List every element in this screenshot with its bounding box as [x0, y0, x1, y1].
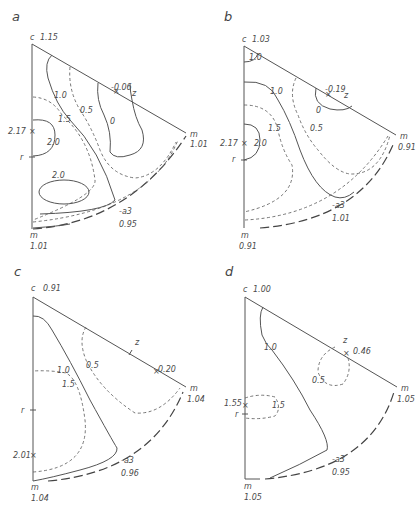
z-name: z [134, 338, 140, 347]
contour-label-0: 0 [110, 117, 115, 126]
arc-name: -a3 [332, 455, 345, 464]
top-edge [245, 297, 397, 387]
apex-name: c [243, 285, 248, 294]
panel-b: b c 1.03 1.0 1.0 0 1.5 0.5 2.0 -0.19 z ×… [220, 9, 416, 251]
z-value: 0.46 [353, 347, 371, 356]
contour-label-0.5: 0.5 [310, 124, 323, 133]
corner-bottom-name: m [30, 231, 38, 240]
apex-name: c [31, 284, 36, 293]
contour-label-0: 0 [316, 106, 321, 115]
contour-label-1.0: 1.0 [54, 91, 67, 100]
corner-right-value: 1.04 [187, 395, 205, 404]
contour-label-1.5: 1.5 [272, 401, 285, 410]
x-marker-icon: × [113, 87, 120, 96]
contour-label-1.0: 1.0 [57, 366, 70, 375]
contour-label-0.5: 0.5 [86, 361, 99, 370]
contour-1.5 [244, 105, 293, 212]
corner-right-value: 1.05 [397, 395, 415, 404]
corner-right-name: m [401, 384, 409, 393]
x-marker-icon: × [30, 451, 37, 460]
contour-label-2.0b: 2.0 [52, 171, 65, 180]
apex-value: 0.91 [43, 284, 61, 293]
contour-label-1.5: 1.5 [268, 124, 281, 133]
corner-bottom-value: 0.91 [239, 242, 257, 251]
contour-1.5 [33, 371, 85, 472]
arc-name: -a3 [332, 201, 345, 210]
x-marker-icon: × [325, 90, 332, 99]
apex-name: c [30, 33, 35, 42]
corner-right-value: 1.01 [190, 140, 208, 149]
outer-arc [48, 392, 183, 481]
inner-arc-contour [245, 136, 388, 220]
panel-d: d c 1.00 1.0 0.5 1.5 z 0.46 × 1.55 × r m… [224, 264, 415, 502]
corner-bottom-value: 1.05 [244, 493, 262, 502]
arc-value: 1.01 [332, 214, 350, 223]
arc-value: 0.96 [121, 469, 139, 478]
top-edge [32, 44, 186, 133]
x-marker-icon: × [242, 401, 249, 410]
corner-right-name: m [400, 132, 408, 141]
corner-bottom-name: m [244, 482, 252, 491]
corner-bottom-name: m [31, 483, 39, 492]
extremum-value: 1.55 [224, 399, 242, 408]
arc-value: 0.95 [332, 468, 350, 477]
x-marker-icon: × [241, 139, 248, 148]
r-label: r [21, 406, 25, 415]
r-label: r [20, 153, 24, 162]
z-name: z [342, 336, 348, 345]
corner-right-name: m [190, 384, 198, 393]
apex-value: 1.15 [40, 33, 58, 42]
contour-1.0 [40, 55, 115, 214]
top-edge [244, 46, 396, 135]
extremum-value: 2.01 [13, 451, 31, 460]
contour-figure: a c 1.15 1.0 0.5 0 1.5 2.0 2.0 -0.06 z ×… [0, 0, 419, 511]
r-label: r [235, 410, 239, 419]
contour-0 [98, 83, 144, 157]
contour-label-2.0: 2.0 [254, 139, 267, 148]
z-value: 0.20 [158, 365, 176, 374]
contour-label-1.5: 1.5 [62, 380, 75, 389]
panel-a: a c 1.15 1.0 0.5 0 1.5 2.0 2.0 -0.06 z ×… [8, 9, 208, 251]
corner-right-name: m [190, 130, 198, 139]
contour-label-0.5: 0.5 [80, 106, 93, 115]
apex-name: c [242, 35, 247, 44]
arc-value: 0.95 [119, 220, 137, 229]
panel-c: c c 0.91 1.0 0.5 1.5 z 0.20 × 2.01 × r m… [13, 264, 205, 503]
corner-bottom-value: 1.04 [31, 494, 49, 503]
contour-label-1.0: 1.0 [249, 53, 262, 62]
contour-1.0 [260, 307, 327, 478]
contour-label-2.0: 2.0 [47, 138, 60, 147]
x-marker-icon: × [29, 127, 36, 136]
panel-label: d [225, 264, 234, 279]
panel-label: c [14, 264, 21, 279]
corner-bottom-name: m [241, 231, 249, 240]
x-marker-icon: × [153, 367, 160, 376]
extremum-value: 2.17 [8, 127, 27, 136]
z-name: z [343, 91, 349, 100]
contour-label-1.0: 1.0 [264, 343, 277, 352]
arc-name: -a3 [121, 456, 134, 465]
panel-label: b [224, 9, 232, 24]
contour-label-1.5: 1.5 [58, 115, 71, 124]
corner-right-value: 0.91 [398, 143, 416, 152]
r-label: r [232, 155, 236, 164]
panel-label: a [12, 9, 20, 24]
z-name: z [131, 89, 137, 98]
arc-name: -a3 [119, 207, 132, 216]
contour-label-1.0b: 1.0 [270, 87, 283, 96]
contour-label-0.5: 0.5 [312, 376, 325, 385]
contour-2.0-lower [39, 180, 89, 204]
apex-value: 1.00 [253, 285, 271, 294]
x-marker-icon: × [343, 349, 350, 358]
apex-value: 1.03 [252, 35, 270, 44]
corner-bottom-value: 1.01 [30, 242, 48, 251]
extremum-value: 2.17 [220, 139, 239, 148]
